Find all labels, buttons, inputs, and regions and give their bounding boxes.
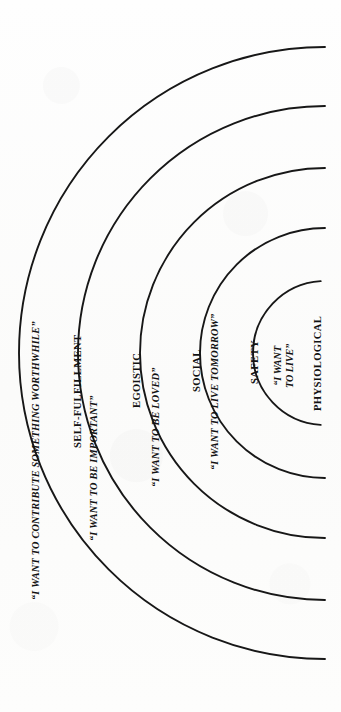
tier-quote-physiological: “I WANT TO LIVE” [272,344,296,388]
tier-name-physiological: PHYSIOLOGICAL [312,316,325,411]
tier-quote-physiological-line1: “I WANT [272,344,284,388]
arc-social [140,168,325,538]
tier-name-self-fulfillment: SELF-FULFILLMENT [72,335,85,448]
tier-name-egoistic: EGOISTIC [131,353,144,408]
tier-name-safety: SAFETY [249,340,262,384]
tier-name-social: SOCIAL [191,349,204,392]
tier-quote-self-fulfillment: “I WANT TO CONTRIBUTE SOMETHING WORTHWHI… [30,321,42,600]
tier-quote-egoistic: “I WANT TO BE IMPORTANT” [88,395,100,541]
tier-quote-safety: “I WANT TO LIVE TOMORROW” [209,314,221,470]
tier-quote-social: “I WANT TO BE LOVED” [150,367,162,487]
tier-quote-physiological-line2: TO LIVE” [284,344,296,388]
figure-canvas: “I WANT TO CONTRIBUTE SOMETHING WORTHWHI… [0,0,341,712]
